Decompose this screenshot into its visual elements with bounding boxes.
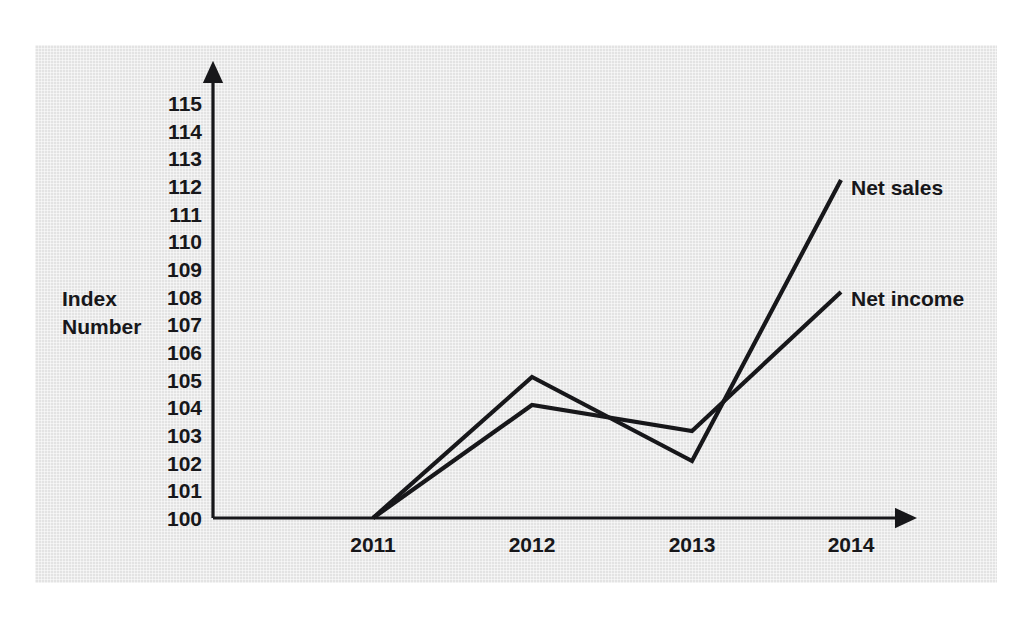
series-line-net-income: [373, 292, 841, 518]
chart-figure: 115 114 113 112 111 110 109 108 107 106 …: [0, 0, 1034, 617]
chart-plot-area: [0, 0, 1034, 617]
